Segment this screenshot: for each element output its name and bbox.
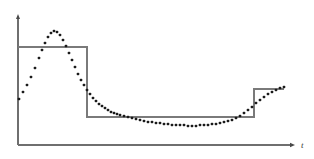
data-point-marker — [92, 97, 95, 100]
data-point-marker — [127, 116, 130, 119]
signal-step-plot: t — [0, 0, 314, 159]
data-point-marker — [191, 125, 194, 128]
data-point-marker — [195, 125, 198, 128]
data-point-marker — [80, 79, 83, 82]
data-point-marker — [251, 106, 254, 109]
data-point-marker — [98, 103, 101, 106]
data-point-marker — [74, 66, 77, 69]
data-point-marker — [243, 112, 246, 115]
data-point-marker — [86, 89, 89, 92]
data-point-marker — [71, 59, 74, 62]
step-approximation-series — [18, 47, 284, 117]
data-point-marker — [143, 120, 146, 123]
data-point-marker — [59, 34, 62, 37]
data-point-marker — [163, 123, 166, 126]
data-point-marker — [119, 114, 122, 117]
data-point-marker — [47, 36, 50, 39]
data-point-marker — [147, 121, 150, 124]
data-point-marker — [68, 52, 71, 55]
data-point-marker — [131, 117, 134, 120]
y-axis-arrowhead — [16, 14, 20, 19]
data-point-marker — [56, 31, 59, 34]
data-point-marker — [101, 105, 104, 108]
data-point-marker — [227, 120, 230, 123]
data-point-marker — [38, 57, 41, 60]
data-point-marker — [203, 124, 206, 127]
data-point-marker — [263, 96, 266, 99]
data-point-marker — [247, 109, 250, 112]
data-point-marker — [18, 98, 21, 101]
data-point-marker — [175, 124, 178, 127]
data-point-marker — [44, 42, 47, 45]
data-point-marker — [135, 118, 138, 121]
data-point-marker — [283, 86, 286, 89]
data-point-marker — [123, 115, 126, 118]
data-point-marker — [41, 49, 44, 52]
data-point-marker — [235, 117, 238, 120]
data-point-marker — [34, 67, 37, 70]
data-point-marker — [107, 109, 110, 112]
x-axis-label: t — [301, 140, 304, 150]
data-point-marker — [104, 107, 107, 110]
data-point-marker — [77, 73, 80, 76]
data-point-marker — [199, 124, 202, 127]
data-point-marker — [207, 124, 210, 127]
data-point-marker — [110, 111, 113, 114]
data-point-marker — [139, 119, 142, 122]
data-point-marker — [267, 93, 270, 96]
data-point-marker — [26, 84, 29, 87]
data-point-marker — [22, 91, 25, 94]
data-point-marker — [271, 91, 274, 94]
data-point-marker — [65, 45, 68, 48]
data-point-marker — [155, 122, 158, 125]
data-point-marker — [30, 76, 33, 79]
data-point-marker — [275, 89, 278, 92]
data-point-marker — [167, 123, 170, 126]
data-point-marker — [50, 32, 53, 35]
data-point-marker — [89, 93, 92, 96]
step-path — [18, 47, 284, 117]
data-point-marker — [62, 39, 65, 42]
data-point-marker — [151, 121, 154, 124]
data-point-marker — [171, 124, 174, 127]
figure-canvas: t — [0, 0, 314, 159]
data-point-marker — [159, 122, 162, 125]
data-point-marker — [231, 119, 234, 122]
data-point-marker — [179, 124, 182, 127]
data-point-marker — [211, 123, 214, 126]
x-axis-arrowhead — [290, 143, 295, 147]
data-point-marker — [259, 99, 262, 102]
data-point-series — [18, 30, 286, 128]
data-point-marker — [187, 125, 190, 128]
data-point-marker — [183, 124, 186, 127]
data-point-marker — [219, 122, 222, 125]
data-point-marker — [95, 100, 98, 103]
data-point-marker — [53, 30, 56, 33]
data-point-marker — [279, 87, 282, 90]
data-point-marker — [215, 123, 218, 126]
data-point-marker — [239, 115, 242, 118]
data-point-marker — [83, 84, 86, 87]
data-point-marker — [116, 113, 119, 116]
data-point-marker — [223, 121, 226, 124]
data-point-marker — [113, 112, 116, 115]
data-point-marker — [255, 102, 258, 105]
